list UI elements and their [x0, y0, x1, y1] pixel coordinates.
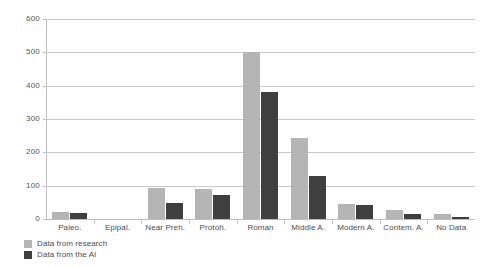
bar — [404, 214, 421, 219]
bar-chart: 0100200300400500600 Paleo.Epipal.Near Pr… — [0, 0, 481, 267]
chart-legend: Data from researchData from the AI — [24, 240, 107, 259]
bar-group — [46, 19, 94, 219]
y-axis-tick-label: 100 — [26, 182, 40, 190]
bar-group — [141, 19, 189, 219]
bar-group — [237, 19, 285, 219]
x-axis-label: Contem. A. — [380, 224, 428, 233]
y-axis-tick-label: 400 — [26, 82, 40, 90]
legend-swatch-icon — [24, 240, 32, 248]
bar — [52, 212, 69, 219]
bar-group — [284, 19, 332, 219]
bar — [291, 138, 308, 219]
x-axis-label: Epipal. — [94, 224, 142, 233]
bar — [70, 213, 87, 219]
bar-group — [189, 19, 237, 219]
bar — [309, 176, 326, 219]
y-axis-tick-label: 600 — [26, 15, 40, 23]
y-axis-tick-label: 200 — [26, 148, 40, 156]
y-axis-tick-label: 500 — [26, 48, 40, 56]
bar — [356, 205, 373, 219]
bar — [148, 188, 165, 219]
y-axis-tick-label: 300 — [26, 115, 40, 123]
x-axis-label: Protoh. — [189, 224, 237, 233]
legend-swatch-icon — [24, 251, 32, 259]
bar — [386, 210, 403, 219]
bar — [452, 217, 469, 219]
bar — [195, 189, 212, 219]
bar — [261, 92, 278, 219]
x-axis-label-group: Paleo.Epipal.Near Preh.Protoh.RomanMiddl… — [46, 224, 475, 233]
x-axis-label: Roman — [237, 224, 285, 233]
legend-item[interactable]: Data from research — [24, 240, 107, 248]
bar-group — [332, 19, 380, 219]
bar — [166, 203, 183, 219]
legend-label: Data from the AI — [37, 251, 96, 259]
bar — [434, 214, 451, 219]
x-axis-label: Middle A. — [284, 224, 332, 233]
bar-group-container — [46, 19, 475, 219]
bar-group — [380, 19, 428, 219]
x-axis-label: Paleo. — [46, 224, 94, 233]
x-axis-label: Near Preh. — [141, 224, 189, 233]
x-axis-label: No Data — [427, 224, 475, 233]
bar — [213, 195, 230, 219]
bar — [338, 204, 355, 219]
y-axis-tick-label: 0 — [35, 215, 40, 223]
bar — [243, 52, 260, 219]
bar-group — [427, 19, 475, 219]
bar-group — [94, 19, 142, 219]
legend-item[interactable]: Data from the AI — [24, 251, 107, 259]
legend-label: Data from research — [37, 240, 107, 248]
x-axis-label: Modern A. — [332, 224, 380, 233]
